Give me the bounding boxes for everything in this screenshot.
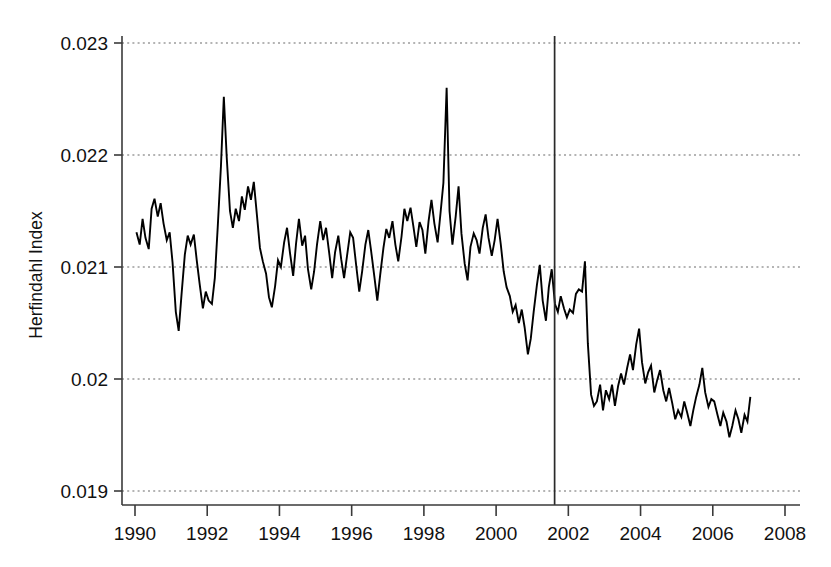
chart-background [0, 0, 831, 567]
x-axis-tick-label: 1998 [403, 523, 445, 544]
x-axis-tick-label: 2000 [475, 523, 517, 544]
y-axis-tick-label: 0.022 [60, 145, 108, 166]
y-axis-tick-label: 0.021 [60, 257, 108, 278]
chart-figure: 0.0190.020.0210.0220.023 199019921994199… [0, 0, 831, 567]
y-axis-label: Herfindahl Index [26, 211, 46, 339]
x-axis-tick-label: 1992 [186, 523, 228, 544]
y-axis-tick-label: 0.02 [71, 369, 108, 390]
x-axis-tick-label: 2002 [547, 523, 589, 544]
x-axis-tick-label: 2008 [764, 523, 806, 544]
herfindahl-index-line-chart: 0.0190.020.0210.0220.023 199019921994199… [0, 0, 831, 567]
x-axis-tick-label: 1996 [331, 523, 373, 544]
x-axis-tick-label: 2006 [692, 523, 734, 544]
y-axis-tick-label: 0.019 [60, 481, 108, 502]
x-axis-tick-label: 1994 [258, 523, 301, 544]
x-axis-tick-label: 1990 [114, 523, 156, 544]
y-axis-tick-label: 0.023 [60, 33, 108, 54]
x-axis-tick-label: 2004 [619, 523, 662, 544]
